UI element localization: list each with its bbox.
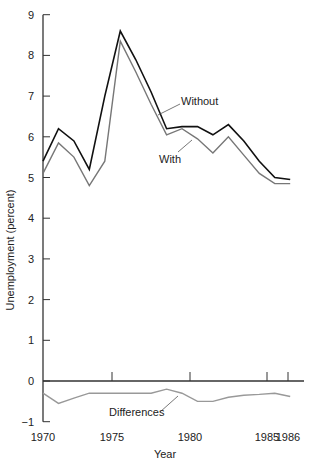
- y-tick-label: 5: [28, 172, 34, 184]
- y-tick-label: 8: [28, 49, 34, 61]
- y-tick-label: 4: [28, 212, 34, 224]
- y-tick-label: 7: [28, 90, 34, 102]
- y-tick-label: 2: [28, 294, 34, 306]
- y-tick-label: 6: [28, 131, 34, 143]
- x-tick-label: 1986: [276, 431, 300, 443]
- x-axis: 19701975198019851986: [31, 372, 304, 443]
- y-tick-label: 0: [28, 375, 34, 387]
- x-tick-label: 1975: [100, 431, 124, 443]
- y-tick-label: 9: [28, 9, 34, 21]
- y-tick-label: 3: [28, 253, 34, 265]
- y-tick-label: −1: [21, 416, 34, 428]
- y-tick-label: 1: [28, 334, 34, 346]
- series-differences: [43, 389, 290, 403]
- annotation-with: With: [159, 153, 181, 165]
- unemployment-line-chart: −10123456789 19701975198019851986 Withou…: [0, 0, 316, 469]
- x-axis-title: Year: [154, 448, 177, 460]
- y-axis: −10123456789: [21, 9, 50, 428]
- annotation-differences: Differences: [109, 406, 165, 418]
- x-tick-label: 1970: [31, 431, 55, 443]
- series-lines: [43, 31, 290, 403]
- x-tick-label: 1980: [178, 431, 202, 443]
- annotation-without: Without: [181, 95, 218, 107]
- y-axis-title: Unemployment (percent): [4, 189, 16, 310]
